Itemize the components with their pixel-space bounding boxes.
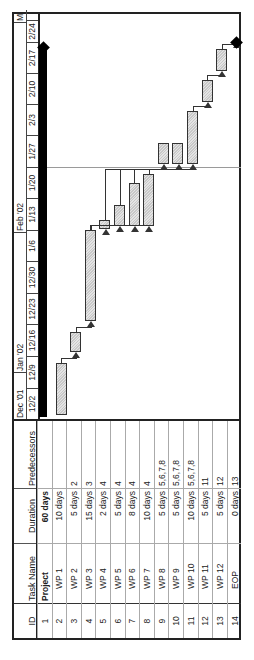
- week-label: 12/9: [27, 356, 38, 388]
- table-row[interactable]: 2WP 110 days: [52, 421, 67, 638]
- cell-duration[interactable]: 0 days: [228, 488, 242, 543]
- table-row[interactable]: 10WP 95 days5,6,7,8: [168, 421, 183, 638]
- header-predecessors[interactable]: Predecessors: [14, 419, 38, 488]
- cell-predecessors[interactable]: [53, 419, 67, 488]
- cell-predecessors[interactable]: 4: [140, 419, 154, 488]
- cell-id[interactable]: 3: [67, 603, 81, 638]
- cell-duration[interactable]: 2 days: [96, 488, 110, 543]
- cell-predecessors[interactable]: 5,6,7,8: [169, 419, 183, 488]
- cell-duration[interactable]: 10 days: [140, 488, 154, 543]
- week-label: 1/20: [27, 167, 38, 198]
- cell-id[interactable]: 5: [96, 603, 110, 638]
- table-row[interactable]: 3WP 25 days2: [66, 421, 81, 638]
- table-row[interactable]: 11WP 1010 days5,6,7,8: [183, 421, 198, 638]
- table-row[interactable]: 14EOP0 days13: [227, 421, 242, 638]
- cell-id[interactable]: 7: [126, 603, 140, 638]
- cell-id[interactable]: 11: [184, 603, 198, 638]
- cell-duration[interactable]: 5 days: [67, 488, 81, 543]
- cell-predecessors[interactable]: 13: [228, 419, 242, 488]
- cell-duration[interactable]: 5 days: [199, 488, 213, 543]
- week-label: 1/27: [27, 135, 38, 167]
- cell-predecessors[interactable]: 5,6,7,8: [184, 419, 198, 488]
- cell-duration[interactable]: 5 days: [169, 488, 183, 543]
- table-row[interactable]: 12WP 115 days11: [198, 421, 213, 638]
- cell-predecessors[interactable]: 3: [82, 419, 96, 488]
- task-bar-wp-8[interactable]: [158, 143, 169, 164]
- table-row[interactable]: 1Project60 days: [37, 421, 52, 638]
- cell-task-name[interactable]: WP 4: [96, 543, 110, 603]
- cell-task-name[interactable]: WP 9: [169, 543, 183, 603]
- table-row[interactable]: 8WP 710 days4: [139, 421, 154, 638]
- summary-bar-project[interactable]: [39, 47, 47, 417]
- header-id[interactable]: ID: [14, 603, 38, 638]
- task-bar-wp-5[interactable]: [114, 205, 125, 226]
- cell-id[interactable]: 2: [53, 603, 67, 638]
- cell-duration[interactable]: 5 days: [155, 488, 169, 543]
- month-dec: Dec '01: [14, 372, 27, 419]
- link-line: [149, 170, 150, 174]
- cell-predecessors[interactable]: 4: [96, 419, 110, 488]
- cell-task-name[interactable]: WP 1: [53, 543, 67, 603]
- cell-predecessors[interactable]: 5,6,7,8: [155, 419, 169, 488]
- cell-task-name[interactable]: WP 12: [213, 543, 227, 603]
- month-jan: Jan '02: [14, 232, 27, 372]
- link-line: [105, 170, 106, 220]
- cell-id[interactable]: 9: [155, 603, 169, 638]
- week-label: 2/24: [27, 20, 38, 42]
- cell-duration[interactable]: 5 days: [111, 488, 125, 543]
- cell-duration[interactable]: 8 days: [126, 488, 140, 543]
- link-line: [134, 170, 135, 183]
- cell-predecessors[interactable]: 11: [199, 419, 213, 488]
- cell-task-name[interactable]: Project: [38, 543, 52, 603]
- cell-duration[interactable]: 10 days: [53, 488, 67, 543]
- task-bar-wp-3[interactable]: [85, 230, 96, 321]
- link-arrow-icon: [204, 102, 212, 108]
- cell-task-name[interactable]: WP 10: [184, 543, 198, 603]
- header-task-name[interactable]: Task Name: [14, 543, 38, 603]
- cell-id[interactable]: 4: [82, 603, 96, 638]
- cell-task-name[interactable]: WP 8: [155, 543, 169, 603]
- cell-task-name[interactable]: WP 6: [126, 543, 140, 603]
- table-row[interactable]: 13WP 125 days12: [212, 421, 227, 638]
- cell-duration[interactable]: 5 days: [213, 488, 227, 543]
- task-bar-wp-9[interactable]: [172, 143, 183, 164]
- cell-predecessors[interactable]: 4: [126, 419, 140, 488]
- cell-task-name[interactable]: WP 7: [140, 543, 154, 603]
- task-bar-wp-1[interactable]: [56, 363, 67, 415]
- cell-id[interactable]: 6: [111, 603, 125, 638]
- cell-predecessors[interactable]: 2: [67, 419, 81, 488]
- cell-task-name[interactable]: WP 3: [82, 543, 96, 603]
- table-row[interactable]: 9WP 85 days5,6,7,8: [154, 421, 169, 638]
- task-bar-wp-7[interactable]: [143, 174, 154, 226]
- cell-duration[interactable]: 10 days: [184, 488, 198, 543]
- task-bar-wp-12[interactable]: [216, 49, 227, 71]
- week-label: 12/2: [27, 388, 38, 419]
- cell-task-name[interactable]: WP 11: [199, 543, 213, 603]
- table-row[interactable]: 4WP 315 days3: [81, 421, 96, 638]
- task-bar-wp-11[interactable]: [202, 80, 213, 102]
- task-bar-wp-6[interactable]: [129, 183, 140, 226]
- cell-id[interactable]: 8: [140, 603, 154, 638]
- cell-id[interactable]: 12: [199, 603, 213, 638]
- cell-id[interactable]: 1: [38, 603, 52, 638]
- table-row[interactable]: 6WP 55 days4: [110, 421, 125, 638]
- cell-id[interactable]: 14: [228, 603, 242, 638]
- cell-task-name[interactable]: WP 5: [111, 543, 125, 603]
- table-row[interactable]: 5WP 42 days4: [95, 421, 110, 638]
- cell-duration[interactable]: 15 days: [82, 488, 96, 543]
- table-row[interactable]: 7WP 68 days4: [125, 421, 140, 638]
- cell-id[interactable]: 10: [169, 603, 183, 638]
- week-label: 12/23: [27, 293, 38, 324]
- link-line: [90, 226, 91, 230]
- task-bar-wp-10[interactable]: [187, 111, 198, 164]
- cell-predecessors[interactable]: [38, 419, 52, 488]
- cell-task-name[interactable]: EOP: [228, 543, 242, 603]
- cell-predecessors[interactable]: 12: [213, 419, 227, 488]
- gantt-chart: Dec '01 Jan '02 Feb '02 M 12/212/912/161…: [12, 12, 241, 421]
- cell-predecessors[interactable]: 4: [111, 419, 125, 488]
- header-duration[interactable]: Duration: [14, 488, 38, 543]
- cell-id[interactable]: 13: [213, 603, 227, 638]
- cell-duration[interactable]: 60 days: [38, 488, 52, 543]
- cell-task-name[interactable]: WP 2: [67, 543, 81, 603]
- task-bar-wp-2[interactable]: [70, 332, 81, 352]
